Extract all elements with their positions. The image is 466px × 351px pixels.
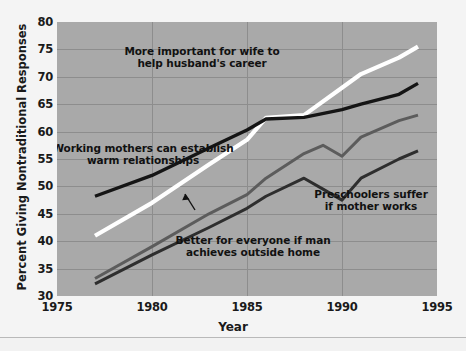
- x-tick-1975: 1975: [41, 300, 72, 314]
- y-tick-80: 80: [5, 17, 53, 27]
- annotation-line-1: Better for everyone if man: [175, 235, 330, 247]
- annotation-line-2: achieves outside home: [175, 247, 330, 259]
- annotation-preschoolers-suffer: Preschoolers suffer if mother works: [314, 189, 427, 212]
- y-tick-35: 35: [5, 264, 53, 274]
- plot-area: More important for wife to help husband'…: [57, 22, 437, 296]
- x-tick-1990: 1990: [326, 300, 357, 314]
- y-tick-60: 60: [5, 127, 53, 137]
- annotation-more-important-wife: More important for wife to help husband'…: [124, 46, 279, 69]
- annotation-better-for-everyone: Better for everyone if man achieves outs…: [175, 235, 330, 258]
- y-tick-55: 55: [5, 154, 53, 164]
- y-tick-45: 45: [5, 209, 53, 219]
- x-tick-1985: 1985: [231, 300, 262, 314]
- x-tick-1980: 1980: [136, 300, 167, 314]
- x-axis-tick-labels: 1975 1980 1985 1990 1995: [0, 300, 466, 316]
- annotation-line-1: Preschoolers suffer: [314, 189, 427, 201]
- y-tick-40: 40: [5, 236, 53, 246]
- chart-figure: Percent Giving Nontraditional Responses …: [0, 0, 466, 351]
- annotation-line-2: if mother works: [314, 201, 427, 213]
- x-tick-1995: 1995: [421, 300, 452, 314]
- annotation-arrow-group: [182, 194, 195, 210]
- annotation-working-mothers: Working mothers can establish warm relat…: [57, 143, 234, 166]
- y-tick-65: 65: [5, 99, 53, 109]
- y-tick-70: 70: [5, 72, 53, 82]
- series-line-3: [95, 151, 418, 284]
- annotation-line-1: More important for wife to: [124, 46, 279, 58]
- y-tick-50: 50: [5, 181, 53, 191]
- annotation-line-2: help husband's career: [124, 58, 279, 70]
- annotation-line-1: Working mothers can establish: [57, 143, 234, 155]
- y-tick-75: 75: [5, 44, 53, 54]
- y-axis-tick-labels: 80 75 70 65 60 55 50 45 40 35 30: [0, 0, 53, 351]
- series-line-1: [95, 83, 418, 196]
- x-axis-title: Year: [0, 320, 466, 334]
- annotation-line-2: warm relationships: [57, 155, 234, 167]
